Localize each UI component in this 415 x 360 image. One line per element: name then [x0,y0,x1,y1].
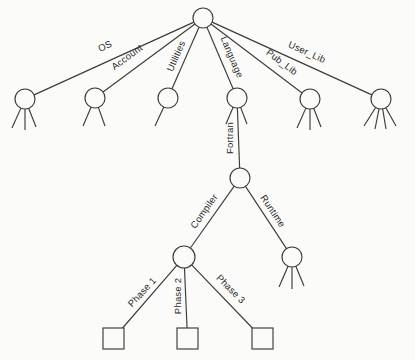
edge-label-user-lib: User_Lib [287,39,328,65]
node-user-lib-leg-1 [364,107,376,126]
node-compiler [173,246,195,268]
edge-label-phase-3: Phase 3 [214,272,247,305]
node-pub-lib-leg-3 [314,108,321,127]
diagram-stage: OSAccountUtilitiesLanguagePub_LibUser_Li… [0,0,415,360]
node-user-lib-leg-3 [383,109,386,129]
node-utilities-leg-1 [155,107,164,126]
node-utilities [158,88,178,108]
tree-diagram: OSAccountUtilitiesLanguagePub_LibUser_Li… [0,0,415,360]
node-phase-3 [252,328,273,349]
node-root [193,8,213,28]
edge-compiler-phase-2 [184,268,187,328]
node-account-leg-2 [98,107,105,126]
node-pub-lib-leg-1 [297,108,306,128]
edge-language-fortran [237,108,239,168]
node-os [15,89,35,109]
edge-label-os: OS [96,38,113,54]
node-runtime-leg-1 [279,266,288,287]
node-os-leg-3 [29,108,36,127]
node-fortran [230,168,250,188]
node-runtime [282,247,302,267]
node-language-leg-2 [241,107,247,124]
node-language-leg-1 [226,107,233,124]
edge-label-account: Account [109,42,144,72]
node-os-leg-1 [12,108,21,128]
node-language [227,88,247,108]
node-user-lib-leg-2 [375,109,379,129]
edge-label-compiler: Compiler [188,192,220,231]
node-phase-2 [177,328,198,349]
edge-label-language: Language [219,35,246,80]
node-runtime-leg-3 [296,266,304,286]
node-user-lib [371,89,391,109]
edge-label-phase-2: Phase 2 [172,278,183,314]
edge-label-runtime: Runtime [258,193,287,230]
edge-label-fortran: Fortran [224,122,235,154]
node-account [85,88,105,108]
node-phase-1 [103,328,124,349]
node-user-lib-leg-4 [386,108,396,126]
node-account-leg-1 [83,107,91,126]
node-pub-lib [300,89,320,109]
